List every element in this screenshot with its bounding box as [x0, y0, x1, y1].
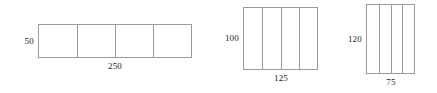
figure-2-divider-2 — [281, 8, 282, 69]
figure-3-divider-2 — [391, 5, 392, 73]
figure-1-divider-2 — [115, 25, 116, 57]
figure-2-width-label: 125 — [274, 73, 288, 83]
figure-3-rectangle — [366, 4, 415, 74]
diagram-canvas: 50 250 100 125 120 75 — [0, 0, 437, 93]
figure-1-divider-1 — [77, 25, 78, 57]
figure-1-height-label: 50 — [14, 36, 34, 46]
figure-2-height-label: 100 — [216, 33, 239, 43]
figure-1-width-label: 250 — [108, 61, 122, 71]
figure-3-height-label: 120 — [339, 34, 362, 44]
figure-3-width-label: 75 — [386, 77, 395, 87]
figure-2-divider-1 — [262, 8, 263, 69]
figure-3-divider-1 — [379, 5, 380, 73]
figure-3-divider-3 — [402, 5, 403, 73]
figure-2-rectangle — [243, 7, 318, 70]
figure-2-divider-3 — [299, 8, 300, 69]
figure-1-divider-3 — [153, 25, 154, 57]
figure-1-rectangle — [38, 24, 192, 58]
